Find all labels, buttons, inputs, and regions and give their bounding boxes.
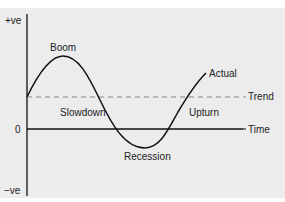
y-positive-label: +ve [5,15,22,26]
slowdown-label: Slowdown [60,107,106,118]
trend-label: Trend [248,91,274,102]
actual-curve [27,56,206,148]
business-cycle-diagram: +ve 0 −ve Boom Slowdown Recession Upturn… [0,0,285,202]
y-zero-label: 0 [15,124,21,135]
actual-label: Actual [209,68,237,79]
y-negative-label: −ve [4,185,21,196]
time-label: Time [248,124,270,135]
boom-label: Boom [50,42,76,53]
upturn-label: Upturn [189,107,219,118]
recession-label: Recession [124,151,171,162]
